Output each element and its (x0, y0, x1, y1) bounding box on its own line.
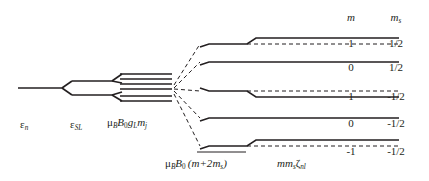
fan-sl-lower-to-multiplet (112, 92, 122, 95)
energy-level-diagram: εn εSL μBB0gLmj μBB0 (m+2ms) mmsζnl m ms… (0, 0, 429, 181)
multiplet-lines (120, 74, 172, 101)
level-5-m-value: -1 (340, 146, 362, 157)
level-2-m-value: 0 (340, 62, 362, 73)
correlation-line-m0-up (174, 62, 200, 88)
column-header-ms: ms (382, 12, 410, 25)
stage-label-epsilon-n: εn (20, 119, 28, 132)
correlation-line-m1-down (174, 89, 200, 91)
diagram-canvas (0, 0, 429, 181)
correlation-line-m1-up (174, 44, 200, 85)
stage-label-zeeman: μBB0gLmj (107, 117, 147, 130)
fan-sl-upper-to-multiplet (112, 74, 122, 81)
level-line-3 (200, 88, 399, 97)
level-4-ms-value: -1/2 (380, 118, 412, 129)
level-line-4 (200, 118, 399, 121)
fan-sl-upper-to-multiplet-2 (112, 81, 122, 83)
level-5-ms-value: -1/2 (380, 146, 412, 157)
level-line-2 (200, 62, 399, 65)
level-line-1 (200, 38, 399, 47)
level-2-ms-value: 1/2 (380, 62, 412, 73)
correlation-line-m0-down (174, 91, 200, 118)
level-3-ms-value: -1/2 (380, 91, 412, 102)
stage-label-spin-orbit: mmsζnl (277, 158, 306, 171)
fan-epsilon-n-to-sl-upper (62, 81, 72, 88)
stage-label-paschen-back: μBB0 (m+2ms) (165, 158, 227, 171)
level-1-m-value: 1 (340, 38, 362, 49)
level-line-5 (200, 140, 399, 149)
column-header-m: m (340, 12, 362, 23)
correlation-line-mm1-down (174, 94, 200, 146)
fan-epsilon-n-to-sl-lower (62, 88, 72, 95)
level-4-m-value: 0 (340, 118, 362, 129)
stage-label-epsilon-sl: εSL (70, 119, 82, 132)
level-3-m-value: 1 (340, 91, 362, 102)
level-1-ms-value: 1/2 (380, 38, 412, 49)
